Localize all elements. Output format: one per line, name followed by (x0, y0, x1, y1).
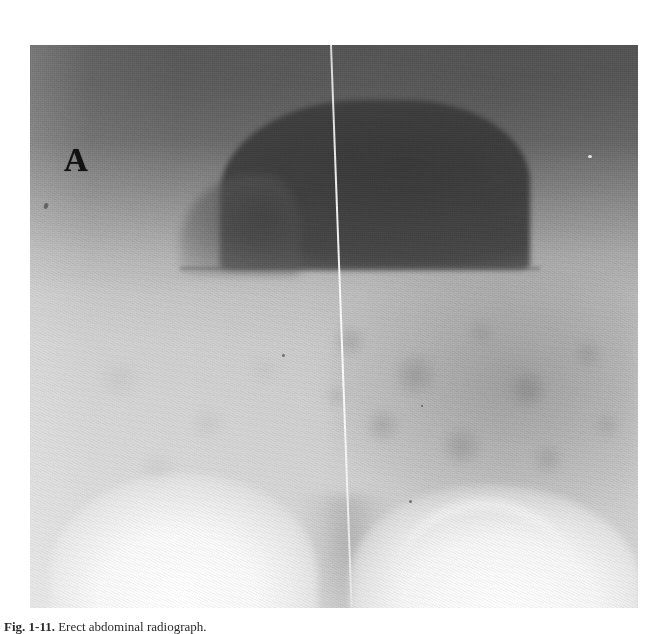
film-speck (43, 203, 49, 210)
figure-page: A Fig. 1-11. Erect abdominal radiograph. (0, 0, 666, 634)
film-speck (409, 500, 412, 503)
film-speck-light (588, 155, 592, 158)
figure-caption-number: Fig. 1-11. (4, 619, 55, 634)
panel-label-a: A (64, 144, 88, 177)
film-speck (282, 354, 285, 357)
film-speck (421, 405, 423, 407)
gas-collection-left-lobe (180, 175, 300, 275)
figure-caption-text: Erect abdominal radiograph. (58, 619, 206, 634)
radiograph-image: A (30, 45, 638, 608)
bowel-gas-pattern (310, 295, 638, 505)
air-fluid-level (180, 267, 540, 274)
figure-caption: Fig. 1-11. Erect abdominal radiograph. (4, 619, 524, 634)
